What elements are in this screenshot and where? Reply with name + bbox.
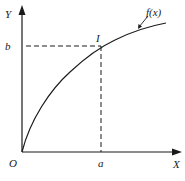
y-axis-arrow-icon bbox=[19, 5, 26, 15]
origin-label: O bbox=[9, 157, 17, 169]
point-i-label: I bbox=[95, 32, 101, 44]
a-label: a bbox=[98, 157, 104, 169]
diagram-svg: Y O X b a I f(x) bbox=[0, 0, 185, 181]
x-axis-arrow-icon bbox=[172, 149, 182, 156]
b-label: b bbox=[5, 40, 11, 52]
curve-label: f(x) bbox=[146, 6, 162, 19]
function-diagram: Y O X b a I f(x) bbox=[0, 0, 185, 181]
function-curve bbox=[22, 23, 166, 152]
y-axis-label: Y bbox=[5, 8, 13, 20]
x-axis-label: X bbox=[172, 158, 181, 170]
